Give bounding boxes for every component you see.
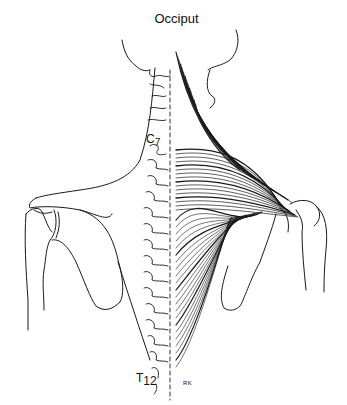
trapezius-muscle-fibers xyxy=(176,52,298,367)
c7-label: C7 xyxy=(146,133,160,148)
left-back-contour xyxy=(118,262,150,360)
t12-label: T12 xyxy=(136,372,157,387)
left-shoulder-bones xyxy=(25,198,123,330)
vertebral-column xyxy=(144,70,170,400)
artist-signature: RK xyxy=(183,380,192,386)
trapezius-illustration xyxy=(0,0,347,405)
occiput-label: Occiput xyxy=(0,12,347,25)
